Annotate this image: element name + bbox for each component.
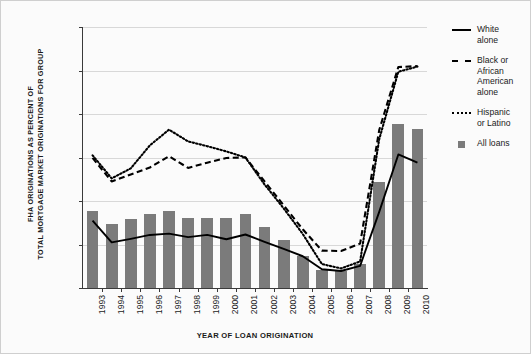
x-tick-mark — [102, 288, 103, 292]
solid-line-key — [452, 24, 472, 36]
legend-label-line: Black or — [477, 55, 513, 66]
chart-legend: WhitealoneBlack orAfricanAmericanaloneHi… — [452, 24, 528, 160]
x-tick-mark — [331, 288, 332, 292]
x-tick-mark — [198, 288, 199, 292]
dotted-line-key-glyph — [452, 112, 471, 114]
x-tick-label: 1993 — [97, 295, 107, 335]
x-tick-label: 2002 — [269, 295, 279, 335]
x-tick-mark — [121, 288, 122, 292]
y-axis-title-line1: FHA ORIGINATIONS AS PERCENT OF — [26, 49, 36, 260]
legend-label-line: American — [477, 76, 513, 87]
x-tick-mark — [274, 288, 275, 292]
plot-area: 0%10%20%30%40%50%60% 1993199419951996199… — [83, 27, 427, 288]
x-tick-mark — [236, 288, 237, 292]
x-tick-mark — [140, 288, 141, 292]
x-tick-label: 2006 — [345, 295, 355, 335]
dotted-line-key — [452, 107, 472, 119]
x-tick-label: 2007 — [364, 295, 374, 335]
x-tick-label: 2003 — [288, 295, 298, 335]
x-tick-label: 2008 — [383, 295, 393, 335]
x-tick-mark — [217, 288, 218, 292]
x-tick-label: 1995 — [135, 295, 145, 335]
bar-swatch-key-glyph — [458, 141, 465, 148]
y-axis-title: FHA ORIGINATIONS AS PERCENT OF TOTAL MOR… — [22, 18, 50, 290]
legend-label-line: Hispanic — [477, 107, 510, 118]
solid-line-key-glyph — [452, 29, 471, 31]
x-tick-mark — [255, 288, 256, 292]
x-tick-mark — [312, 288, 313, 292]
legend-item[interactable]: Whitealone — [452, 24, 528, 45]
x-tick-label: 1994 — [116, 295, 126, 335]
legend-label: All loans — [477, 138, 509, 149]
legend-label-line: alone — [477, 35, 499, 46]
x-tick-label: 1998 — [192, 295, 202, 335]
x-tick-label: 2005 — [326, 295, 336, 335]
legend-label-line: White — [477, 24, 499, 35]
x-tick-mark — [389, 288, 390, 292]
chart-figure: FHA ORIGINATIONS AS PERCENT OF TOTAL MOR… — [0, 0, 531, 354]
legend-label-line: alone — [477, 87, 513, 98]
x-tick-label: 2004 — [307, 295, 317, 335]
dashed-line-key-glyph — [452, 60, 471, 62]
x-axis-title: YEAR OF LOAN ORIGINATION — [83, 331, 427, 340]
dashed-line-key — [452, 55, 472, 67]
y-axis-title-line2: TOTAL MORTGAGE MARKET ORIGINATIONS FOR G… — [36, 49, 46, 260]
legend-label-line: or Latino — [477, 118, 510, 129]
legend-label: Hispanicor Latino — [477, 107, 510, 128]
legend-label-line: All loans — [477, 138, 509, 149]
x-tick-label: 2010 — [421, 295, 431, 335]
y-tick-mark — [79, 288, 83, 289]
legend-item[interactable]: All loans — [452, 138, 528, 150]
x-tick-label: 2000 — [230, 295, 240, 335]
x-tick-label: 1996 — [154, 295, 164, 335]
legend-label-line: African — [477, 66, 513, 77]
x-tick-mark — [293, 288, 294, 292]
legend-item[interactable]: Black orAfricanAmericanalone — [452, 55, 528, 97]
x-tick-label: 2001 — [249, 295, 259, 335]
x-tick-mark — [351, 288, 352, 292]
x-tick-label: 2009 — [402, 295, 412, 335]
bar-swatch-key — [452, 138, 472, 150]
x-tick-mark — [408, 288, 409, 292]
line-black-or-african-american-alone — [93, 66, 418, 251]
x-tick-mark — [370, 288, 371, 292]
legend-label: Whitealone — [477, 24, 499, 45]
x-tick-mark — [179, 288, 180, 292]
x-tick-label: 1999 — [211, 295, 221, 335]
x-tick-label: 1997 — [173, 295, 183, 335]
line-series-layer — [83, 27, 427, 288]
legend-label: Black orAfricanAmericanalone — [477, 55, 513, 97]
x-tick-mark — [159, 288, 160, 292]
legend-item[interactable]: Hispanicor Latino — [452, 107, 528, 128]
